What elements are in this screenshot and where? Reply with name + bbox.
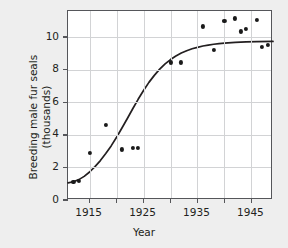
x-axis-tick-label: 1915 <box>75 207 102 218</box>
x-axis-tick-label: 1935 <box>183 207 210 218</box>
y-axis-tick-label: 2 <box>52 161 59 172</box>
y-axis-label-line2: (thousands) <box>40 86 52 149</box>
x-axis-tick-label: 1945 <box>237 207 264 218</box>
x-axis-label: Year <box>0 226 288 238</box>
figure-container: 02468101915192519351945 Breeding male fu… <box>0 0 288 248</box>
y-axis-tick-label: 6 <box>52 96 59 107</box>
y-axis-label: Breeding male fur seals (thousands) <box>27 37 53 197</box>
y-axis-label-line1: Breeding male fur seals <box>27 55 39 180</box>
x-axis-tick-label: 1925 <box>129 207 156 218</box>
y-axis-tick-label: 4 <box>52 128 59 139</box>
y-axis-tick-label: 8 <box>52 63 59 74</box>
y-axis-tick-label: 0 <box>52 194 59 205</box>
